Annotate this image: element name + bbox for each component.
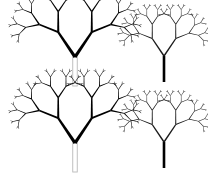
branch-segment bbox=[84, 77, 85, 86]
branch-segment bbox=[99, 77, 100, 86]
tree-trunk-hollow bbox=[73, 143, 78, 172]
branch-segment bbox=[194, 105, 195, 112]
branch-segment bbox=[118, 4, 119, 13]
branch-segment bbox=[118, 90, 119, 99]
branch-segment bbox=[31, 90, 32, 99]
branch-segment bbox=[157, 96, 158, 103]
branch-segment bbox=[57, 98, 59, 118]
branch-segment bbox=[152, 24, 153, 38]
branch-segment bbox=[147, 96, 148, 103]
branch-segment bbox=[170, 96, 171, 103]
branch-segment bbox=[57, 12, 59, 32]
branch-segment bbox=[133, 105, 134, 112]
branch-segment bbox=[91, 98, 93, 118]
branch-segment bbox=[152, 110, 153, 124]
branch-segment bbox=[147, 10, 148, 17]
branch-segment bbox=[50, 77, 51, 86]
branch-segment bbox=[157, 10, 158, 17]
branch-segment bbox=[66, 77, 67, 86]
tree-trunk-solid bbox=[163, 142, 166, 168]
tree-trunk-solid bbox=[163, 56, 166, 82]
fractal-tree-figure bbox=[0, 0, 208, 175]
branch-segment bbox=[194, 19, 195, 26]
branch-segment bbox=[175, 110, 176, 124]
branch-segment bbox=[133, 19, 134, 26]
branch-segment bbox=[31, 4, 32, 13]
branch-segment bbox=[175, 24, 176, 38]
branch-segment bbox=[181, 96, 182, 103]
branch-segment bbox=[170, 10, 171, 17]
tree-trunk-hollow bbox=[73, 57, 78, 86]
branch-segment bbox=[181, 10, 182, 17]
branch-segment bbox=[91, 12, 93, 32]
